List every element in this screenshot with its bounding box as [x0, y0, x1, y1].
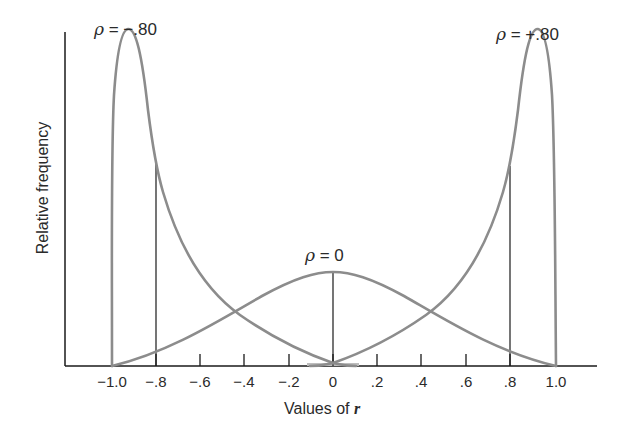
x-tick-label: 0 — [329, 373, 337, 390]
x-axis-label: Values of r — [284, 400, 360, 418]
rho-symbol: ρ — [496, 24, 506, 44]
x-tick-label: .6 — [460, 373, 473, 390]
x-tick-label: −.8 — [145, 373, 166, 390]
sampling-distribution-figure: ρ = −.80 ρ = 0 ρ = +.80 −1.0 −.8 −.6 −.4… — [0, 0, 623, 446]
rho-symbol: ρ — [305, 245, 315, 265]
plot-area — [0, 0, 623, 446]
x-tick-label: .2 — [371, 373, 384, 390]
rho-symbol: ρ — [94, 19, 104, 39]
y-axis-label: Relative frequency — [34, 122, 52, 255]
curve-rho-pos80 — [310, 29, 556, 366]
curve-rho-neg80 — [112, 29, 356, 366]
label-rho-pos80: ρ = +.80 — [496, 24, 559, 45]
x-tick-label: −1.0 — [97, 373, 127, 390]
x-tick-label: −.4 — [233, 373, 254, 390]
x-tick-label: −.2 — [278, 373, 299, 390]
x-tick-label: −.6 — [189, 373, 210, 390]
x-tick-label: .4 — [415, 373, 428, 390]
curve-rho-zero — [112, 272, 556, 366]
x-tick-label: 1.0 — [546, 373, 567, 390]
x-tick-label: .8 — [504, 373, 517, 390]
label-rho-neg80: ρ = −.80 — [94, 19, 157, 40]
label-rho-zero: ρ = 0 — [305, 245, 344, 266]
